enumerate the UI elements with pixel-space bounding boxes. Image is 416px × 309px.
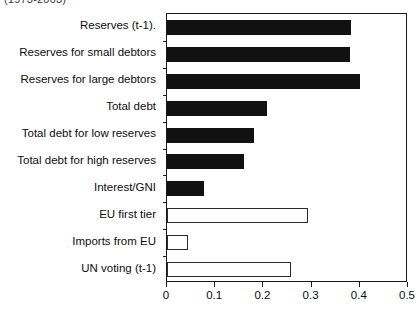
bar <box>167 74 360 89</box>
value-tick <box>262 282 263 287</box>
bar-row <box>167 149 406 176</box>
bar <box>167 154 244 169</box>
category-label: Total debt for low reserves <box>0 127 156 140</box>
category-label: Reserves for small debtors <box>0 46 156 59</box>
bar <box>167 181 204 196</box>
value-tick-label: 0.2 <box>254 289 270 302</box>
value-tick <box>166 282 167 287</box>
bar <box>167 47 350 62</box>
bar <box>167 262 291 277</box>
bar-row <box>167 41 406 68</box>
bar-row <box>167 202 406 229</box>
category-tick <box>163 95 167 96</box>
value-tick-label: 0 <box>163 289 169 302</box>
bar-row <box>167 175 406 202</box>
category-tick <box>163 41 167 42</box>
bar-row <box>167 95 406 122</box>
bar <box>167 208 308 223</box>
bar-series <box>167 14 406 281</box>
category-label: Reserves for large debtors <box>0 73 156 86</box>
value-tick <box>359 282 360 287</box>
value-tick <box>311 282 312 287</box>
category-tick <box>163 68 167 69</box>
value-tick-label: 0.5 <box>399 289 415 302</box>
caption-fragment: (1973-2003) <box>4 0 66 5</box>
category-label: EU first tier <box>0 208 156 221</box>
value-tick-label: 0.4 <box>351 289 367 302</box>
value-tick <box>214 282 215 287</box>
category-tick <box>163 149 167 150</box>
category-tick <box>163 122 167 123</box>
bar-row <box>167 229 406 256</box>
category-tick <box>163 202 167 203</box>
bar-row <box>167 256 406 283</box>
plot-area <box>166 13 407 282</box>
category-tick <box>163 229 167 230</box>
category-label: Interest/GNI <box>0 181 156 194</box>
category-label: Imports from EU <box>0 235 156 248</box>
bar <box>167 235 188 250</box>
category-label: Total debt for high reserves <box>0 154 156 167</box>
category-label: Total debt <box>0 100 156 113</box>
value-tick-label: 0.1 <box>206 289 222 302</box>
category-label: UN voting (t-1) <box>0 262 156 275</box>
category-axis-labels: Reserves (t-1).Reserves for small debtor… <box>0 13 162 282</box>
value-tick <box>407 282 408 287</box>
bar-row <box>167 14 406 41</box>
bar <box>167 101 267 116</box>
bar-row <box>167 68 406 95</box>
bar <box>167 20 351 35</box>
bar-row <box>167 122 406 149</box>
value-axis: 00.10.20.30.40.5 <box>166 282 407 309</box>
category-label: Reserves (t-1). <box>0 19 156 32</box>
bar <box>167 128 254 143</box>
category-tick <box>163 256 167 257</box>
category-tick <box>163 175 167 176</box>
value-tick-label: 0.3 <box>303 289 319 302</box>
bar-chart-figure: (1973-2003) Reserves (t-1).Reserves for … <box>0 0 416 309</box>
